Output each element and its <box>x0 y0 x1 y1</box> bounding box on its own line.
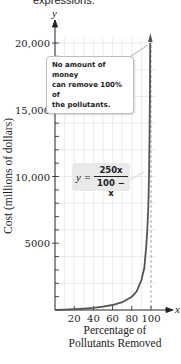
x-tick-label-80: 80 <box>125 313 138 324</box>
y-tick-label-10000: 10,000 <box>15 172 50 183</box>
x-axis-letter: x <box>174 303 180 315</box>
y-axis-label: Cost (millions of dollars) <box>2 116 14 236</box>
callout-line-1: No amount of money <box>52 61 106 79</box>
formula-denominator: 100 − x <box>94 177 128 198</box>
x-axis-label: Percentage of Pollutants Removed <box>55 324 175 350</box>
x-axis-label-line-1: Percentage of <box>84 324 147 336</box>
x-tick-label-100: 100 <box>141 313 160 324</box>
y-tick-label-20000: 20,000 <box>15 38 50 49</box>
formula-lhs: y = <box>76 171 91 183</box>
callout-line-2: can remove 100% of <box>52 81 122 99</box>
curve-arrow <box>148 33 153 42</box>
formula-fraction: 250x 100 − x <box>94 165 128 198</box>
x-axis-label-line-2: Pollutants Removed <box>69 337 162 349</box>
y-axis-letter: y <box>51 7 57 19</box>
annotation-callout: No amount of money can remove 100% of th… <box>46 56 134 114</box>
callout-line-3: the pollutants. <box>52 101 110 109</box>
y-tick-label-15000: 15,000 <box>15 105 50 116</box>
y-tick-label-5000: 5000 <box>25 238 50 249</box>
x-tick-label-40: 40 <box>87 313 100 324</box>
x-tick-label-20: 20 <box>68 313 81 324</box>
formula-box: y = 250x 100 − x <box>72 163 130 191</box>
formula-numerator: 250x <box>94 165 128 177</box>
x-tick-label-60: 60 <box>106 313 119 324</box>
